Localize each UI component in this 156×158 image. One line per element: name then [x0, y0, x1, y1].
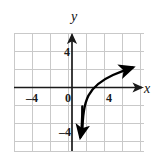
y-axis-label: y — [71, 10, 77, 24]
y-tick-4: 4 — [64, 46, 70, 58]
x-axis-label: x — [144, 82, 150, 96]
y-tick-negative-4: –4 — [59, 126, 71, 138]
x-tick-negative-4: –4 — [26, 92, 38, 104]
graph-screenshot: y x — [0, 0, 156, 158]
origin-tick-0: 0 — [65, 92, 71, 104]
x-tick-4: 4 — [106, 92, 112, 104]
